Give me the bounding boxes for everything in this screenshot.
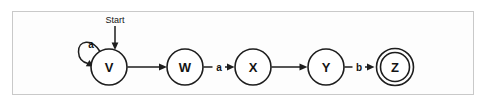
transition-arrowhead-v-to-w xyxy=(159,63,167,70)
start-marker-group: Start xyxy=(105,15,125,50)
state-node-z[interactable]: Z xyxy=(377,49,414,86)
state-label-z: Z xyxy=(391,60,399,75)
state-label-v: V xyxy=(105,60,114,75)
figure-root: Start a V W a xyxy=(0,0,490,108)
state-node-y[interactable]: Y xyxy=(308,49,344,85)
state-node-v[interactable]: V xyxy=(91,49,127,85)
transition-arrowhead-y-to-z xyxy=(367,64,375,71)
state-label-y: Y xyxy=(322,60,331,75)
start-label: Start xyxy=(105,15,125,25)
transition-arrowhead-x-to-y xyxy=(300,63,308,70)
transition-label-y-to-z: b xyxy=(356,62,362,73)
automaton-diagram: Start a V W a xyxy=(0,0,490,108)
transition-arrowhead-w-to-x xyxy=(227,64,235,71)
state-node-x[interactable]: X xyxy=(235,49,271,85)
transition-label-v-to-v: a xyxy=(88,39,94,50)
state-label-x: X xyxy=(249,60,258,75)
transition-v-to-w-group xyxy=(128,63,168,70)
transition-w-to-x-group: a xyxy=(204,62,235,73)
state-label-w: W xyxy=(179,60,192,75)
transition-y-to-z-group: b xyxy=(345,62,375,73)
transition-label-w-to-x: a xyxy=(216,62,222,73)
transition-x-to-y-group xyxy=(272,63,308,70)
state-node-w[interactable]: W xyxy=(167,49,203,85)
